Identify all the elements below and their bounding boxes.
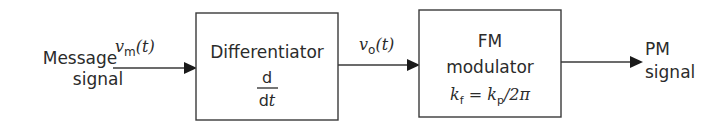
block-diagram: Message signal vm(t) Differentiator d dt…	[0, 0, 715, 127]
output-label-line2: signal	[645, 62, 695, 82]
vm-subscript: m	[124, 45, 136, 59]
edge-label-vm: vm(t)	[115, 37, 155, 59]
fm-modulator-line2: modulator	[446, 57, 534, 77]
input-label-line2: signal	[73, 69, 123, 89]
arrowhead-icon	[407, 59, 420, 71]
differentiator-title: Differentiator	[210, 42, 324, 62]
vm-symbol: v	[115, 37, 124, 56]
edge-label-vo: vo(t)	[359, 35, 394, 57]
output-label-line1: PM	[645, 39, 670, 59]
derivative-numerator: d	[262, 68, 272, 87]
vm-argument: (t)	[136, 37, 155, 56]
derivative-denominator: dt	[259, 91, 276, 110]
arrowhead-icon	[184, 62, 197, 74]
input-label-line1: Message	[43, 48, 118, 68]
arrowhead-icon	[630, 56, 643, 68]
fm-modulator-line1: FM	[478, 31, 502, 51]
